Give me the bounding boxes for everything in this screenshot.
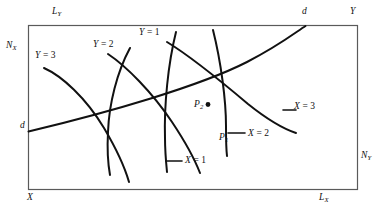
contract-curve-label-left-d: d <box>20 121 25 131</box>
isoquant-label-x-2: X = 2 <box>248 129 269 139</box>
isoquant-label-y-2: Y = 2 <box>93 40 114 50</box>
figure-canvas: LY NX X Y LX NY d d Y = 3 Y = 2 Y = 1 X … <box>0 0 380 218</box>
axis-label-l-y: LY <box>52 7 61 17</box>
diagram-svg <box>0 0 380 218</box>
axis-label-n-x: NX <box>6 41 17 51</box>
isoquant-label-x-1: X = 1 <box>185 156 206 166</box>
point-p2-dot <box>206 102 211 107</box>
axis-label-n-y: NY <box>361 151 371 161</box>
isoquant-label-y-3: Y = 3 <box>35 51 56 61</box>
axis-label-l-x: LX <box>319 193 329 203</box>
axis-label-x-origin: X <box>27 193 33 203</box>
point-label-p1: P1 <box>219 133 228 143</box>
contract-curve-label-right-d: d <box>302 7 307 17</box>
point-label-p2: P2 <box>194 100 203 110</box>
isoquant-label-y-1: Y = 1 <box>139 28 160 38</box>
isoquant-label-x-3: X = 3 <box>294 102 315 112</box>
axis-label-y-origin: Y <box>350 7 355 17</box>
isoquant-x-1b <box>165 32 176 172</box>
